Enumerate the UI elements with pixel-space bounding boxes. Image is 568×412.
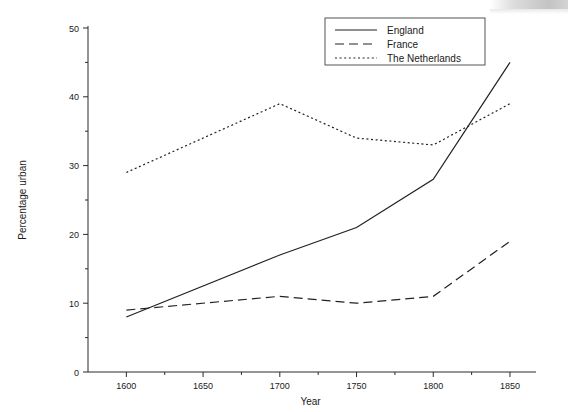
legend-label: The Netherlands	[387, 53, 461, 64]
y-tick-label: 30	[69, 161, 79, 171]
x-tick-label: 1800	[423, 381, 443, 391]
series-line-france	[126, 241, 510, 310]
series-line-netherlands	[126, 104, 510, 173]
legend: EnglandFranceThe Netherlands	[325, 18, 485, 65]
x-tick-label: 1650	[193, 381, 213, 391]
legend-label: England	[387, 25, 424, 36]
y-tick-label: 50	[69, 24, 79, 34]
legend-label: France	[387, 39, 419, 50]
x-tick-label: 1600	[116, 381, 136, 391]
x-tick-label: 1700	[270, 381, 290, 391]
y-tick-label: 20	[69, 230, 79, 240]
y-axis-title: Percentage urban	[17, 160, 28, 240]
series-line-england	[126, 62, 510, 317]
x-tick-label: 1850	[500, 381, 520, 391]
x-axis-title: Year	[300, 396, 321, 407]
line-chart-svg: 01020304050160016501700175018001850YearP…	[0, 0, 568, 412]
x-tick-label: 1750	[347, 381, 367, 391]
y-tick-label: 0	[74, 368, 79, 378]
chart-figure: 01020304050160016501700175018001850YearP…	[0, 0, 568, 412]
y-tick-label: 10	[69, 299, 79, 309]
y-tick-label: 40	[69, 92, 79, 102]
